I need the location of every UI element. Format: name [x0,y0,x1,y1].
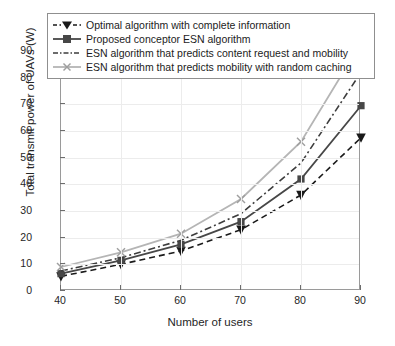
x-tick-label: 70 [220,294,260,306]
y-tick-label: 90 [2,44,32,56]
y-tick-label: 40 [2,177,32,189]
y-tick-label: 10 [2,257,32,269]
gridline-horizontal [61,238,359,239]
legend-label-esn-content-mobility: ESN algorithm that predicts content requ… [86,46,348,60]
legend-item-proposed: Proposed conceptor ESN algorithm [52,32,368,46]
y-tick-label: 50 [2,151,32,163]
y-tick-mark [60,130,65,131]
legend-swatch-dashdot-icon [52,46,82,60]
x-tick-mark [360,285,361,290]
gridline-vertical [241,51,242,289]
gridline-vertical [181,51,182,289]
x-tick-label: 90 [340,294,380,306]
chart-legend: Optimal algorithm with complete informat… [47,13,375,79]
y-tick-mark [60,210,65,211]
legend-label-esn-random-caching: ESN algorithm that predicts mobility wit… [86,60,352,74]
legend-item-esn-random-caching: ESN algorithm that predicts mobility wit… [52,60,368,74]
y-tick-mark [60,157,65,158]
y-tick-label: 30 [2,204,32,216]
x-tick-label: 60 [160,294,200,306]
gridline-horizontal [61,158,359,159]
legend-swatch-triangle-down-icon [52,18,82,32]
gridline-horizontal [61,104,359,105]
chart-figure: Total transmit power of UAVs (W) Number … [0,0,395,346]
y-tick-mark [60,103,65,104]
x-tick-label: 50 [100,294,140,306]
y-tick-label: 70 [2,97,32,109]
gridline-vertical [301,51,302,289]
x-tick-mark [60,285,61,290]
x-tick-mark [240,285,241,290]
legend-swatch-x-icon [52,60,82,74]
series-1 [57,102,364,277]
data-series-layer [61,51,361,291]
gridline-vertical [121,51,122,289]
legend-label-proposed: Proposed conceptor ESN algorithm [86,32,251,46]
gridline-horizontal [61,131,359,132]
y-tick-label: 0 [2,284,32,296]
gridline-horizontal [61,184,359,185]
y-tick-label: 60 [2,124,32,136]
plot-area [60,50,360,290]
x-tick-mark [180,285,181,290]
y-tick-label: 20 [2,231,32,243]
x-tick-label: 80 [280,294,320,306]
y-tick-mark [60,237,65,238]
x-tick-mark [300,285,301,290]
x-tick-mark [120,285,121,290]
x-axis-label: Number of users [60,316,360,328]
y-tick-mark [60,263,65,264]
legend-item-esn-content-mobility: ESN algorithm that predicts content requ… [52,46,368,60]
y-tick-mark [60,290,65,291]
legend-item-optimal: Optimal algorithm with complete informat… [52,18,368,32]
gridline-horizontal [61,264,359,265]
y-tick-label: 80 [2,71,32,83]
legend-label-optimal: Optimal algorithm with complete informat… [86,18,290,32]
marker-square [357,102,364,109]
y-tick-mark [60,183,65,184]
gridline-horizontal [61,211,359,212]
legend-swatch-square-icon [52,32,82,46]
x-tick-label: 40 [40,294,80,306]
y-axis-label: Total transmit power of UAVs (W) [24,0,36,227]
